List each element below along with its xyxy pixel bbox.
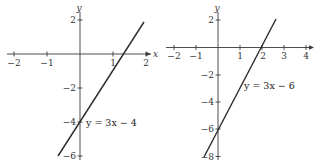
left-x-arrow-icon [146, 52, 151, 56]
right-x-tick-label: 1 [237, 51, 243, 61]
right-x-tick-label: 4 [303, 51, 309, 61]
right-y-tick-label: −6 [201, 124, 215, 134]
left-y-tick-label: −4 [63, 117, 77, 127]
left-x-axis-label: x [153, 49, 158, 59]
right-equation-label: y = 3x − 6 [243, 80, 295, 91]
left-y-axis-label: y [76, 3, 83, 13]
left-x-tick-label: −2 [7, 58, 20, 68]
left-equation-label: y = 3x − 4 [85, 117, 137, 128]
right-x-tick-label: −2 [167, 51, 180, 61]
right-graph: y −2 −1 1 2 3 4 2 −2 −4 −6 −8 y = 3x − 6 [166, 3, 314, 160]
left-y-tick-label: −2 [63, 83, 76, 93]
right-y-tick-label: −2 [201, 70, 214, 80]
left-y-tick-label: 2 [70, 15, 76, 25]
right-x-tick-label: −1 [189, 51, 202, 61]
right-x-tick-label: 3 [281, 51, 287, 61]
right-y-axis-label: y [214, 3, 221, 13]
left-y-tick-label: −6 [63, 151, 77, 160]
right-y-tick-label: −8 [201, 152, 215, 160]
right-x-tick-label: 2 [260, 51, 266, 61]
left-x-tick-label: −1 [40, 58, 53, 68]
left-x-tick-label: 2 [143, 58, 149, 68]
right-y-tick-label: −4 [201, 97, 215, 107]
right-x-arrow-icon [309, 45, 314, 49]
graphs-canvas: x y −2 −1 1 2 2 −2 −4 −6 y = 3x − 4 [0, 0, 314, 160]
left-graph: x y −2 −1 1 2 2 −2 −4 −6 y = 3x − 4 [7, 3, 158, 160]
right-y-tick-label: 2 [208, 15, 214, 25]
